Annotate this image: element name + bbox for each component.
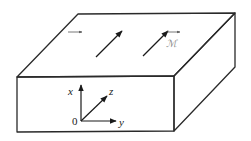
vector-b: 𝒝 xyxy=(68,31,122,57)
y-axis-label: y xyxy=(118,116,124,128)
side-face xyxy=(174,13,235,131)
x-axis-label: x xyxy=(67,85,73,97)
vector-m-arrow-icon xyxy=(143,31,168,56)
coordinate-axes: x y z 0 xyxy=(67,85,124,128)
slab-diagram: 𝒝 ℳ x y z 0 xyxy=(0,0,251,141)
vector-m: ℳ xyxy=(143,31,180,56)
slab-box xyxy=(17,13,235,132)
z-axis-label: z xyxy=(108,85,114,97)
vector-m-label: ℳ xyxy=(166,38,178,49)
vector-b-arrow-icon xyxy=(96,31,122,57)
top-face xyxy=(17,13,235,77)
z-axis-arrow-icon xyxy=(81,96,107,121)
front-face xyxy=(17,76,174,132)
origin-label: 0 xyxy=(72,115,78,127)
